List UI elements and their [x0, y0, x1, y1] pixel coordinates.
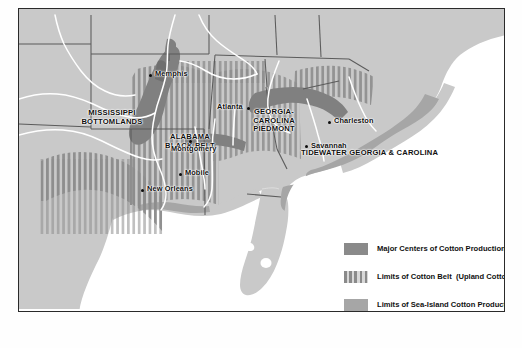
legend-swatch-major-centers: [344, 243, 368, 255]
map-frame: MISSISSIPPI BOTTOMLANDS ALABAMA BLACK BE…: [18, 8, 505, 312]
region-label-mississippi-bottomlands: MISSISSIPPI BOTTOMLANDS: [75, 109, 149, 126]
legend-item-cotton-belt: Limits of Cotton Belt (Upland Cotton): [344, 267, 505, 286]
legend-label-cotton-belt: Limits of Cotton Belt (Upland Cotton): [377, 272, 505, 281]
map-figure: MISSISSIPPI BOTTOMLANDS ALABAMA BLACK BE…: [0, 0, 522, 348]
figure-caption: [255, 338, 517, 347]
city-label-montgomery: Montgomery: [171, 145, 216, 153]
map-canvas: MISSISSIPPI BOTTOMLANDS ALABAMA BLACK BE…: [19, 9, 504, 311]
legend-label-major-centers: Major Centers of Cotton Production: [377, 244, 505, 253]
city-label-new-orleans: New Orleans: [147, 185, 193, 193]
city-label-memphis: Memphis: [155, 70, 188, 78]
city-label-savannah: Savannah: [311, 142, 347, 150]
legend-item-sea-island: Limits of Sea-Island Cotton Production: [344, 295, 505, 312]
city-label-charleston: Charleston: [334, 117, 374, 125]
legend-swatch-cotton-belt: [344, 271, 368, 283]
legend-swatch-sea-island: [344, 299, 368, 311]
legend-label-sea-island: Limits of Sea-Island Cotton Production: [377, 300, 505, 309]
legend-item-major-centers: Major Centers of Cotton Production: [344, 239, 505, 258]
map-legend: Major Centers of Cotton Production Limit…: [344, 239, 505, 312]
region-label-georgia-carolina-piedmont: GEORGIA- CAROLINA PIEDMONT: [241, 108, 307, 134]
city-label-atlanta: Atlanta: [217, 103, 243, 111]
city-label-mobile: Mobile: [185, 169, 209, 177]
